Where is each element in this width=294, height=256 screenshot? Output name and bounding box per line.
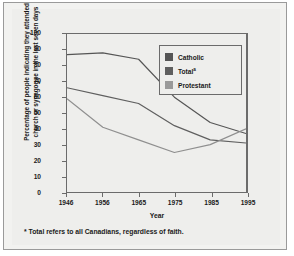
series-line-total [67,88,246,143]
y-axis-tick-label: 0 [23,189,41,196]
chart-footnote: * Total refers to all Canadians, regardl… [24,228,274,235]
y-axis-tick-label: 40 [23,125,41,132]
legend-item-total[interactable]: Totala [165,64,241,78]
x-axis-title: Year [66,212,248,219]
legend-item-label: Catholic [178,54,204,61]
y-axis-tick-label: 30 [23,141,41,148]
x-axis-tick-label: 1995 [233,199,263,206]
y-axis-tick-label: 100 [23,29,41,36]
footnote-marker: * [24,228,27,235]
x-axis-tick-label: 1985 [197,199,227,206]
x-axis-tick-mark [66,193,67,197]
y-axis-tick-label: 50 [23,109,41,116]
x-axis-tick-mark [175,193,176,197]
x-axis-tick-mark [139,193,140,197]
legend-item-protestant[interactable]: Protestant [165,78,241,92]
legend-superscript: a [193,67,196,72]
x-axis-tick-label: 1956 [87,199,117,206]
y-axis-tick-label: 60 [23,93,41,100]
y-axis-tick-label: 80 [23,61,41,68]
x-axis-tick-label: 1975 [160,199,190,206]
x-axis-tick-mark [102,193,103,197]
legend-item-catholic[interactable]: Catholic [165,50,241,64]
legend-item-label: Protestant [178,82,211,89]
x-axis-tick-label: 1965 [124,199,154,206]
y-axis-tick-label: 10 [23,173,41,180]
y-axis-tick-label: 90 [23,45,41,52]
chart-figure: Percentage of people indicating they att… [12,9,280,245]
x-axis-tick-mark [212,193,213,197]
x-axis-tick-mark [248,193,249,197]
x-axis-tick-label: 1946 [51,199,81,206]
chart-legend: CatholicTotalaProtestant [159,45,242,95]
legend-swatch-icon [165,53,173,61]
legend-swatch-icon [165,67,173,75]
y-axis-tick-label: 70 [23,77,41,84]
figure-frame: Percentage of people indicating they att… [3,2,287,250]
legend-swatch-icon [165,81,173,89]
y-axis-tick-label: 20 [23,157,41,164]
legend-item-label: Totala [178,67,196,75]
footnote-text: Total refers to all Canadians, regardles… [29,228,184,235]
